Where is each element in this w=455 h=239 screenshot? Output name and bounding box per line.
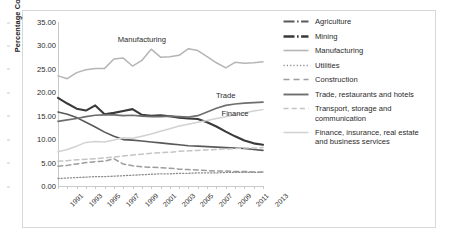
legend-line-icon (283, 60, 309, 71)
legend-item[interactable]: Construction (283, 74, 433, 85)
y-axis-tick-mark (7, 139, 10, 140)
x-axis-tick-mark (188, 186, 189, 189)
series-line (58, 159, 263, 172)
y-axis-tick-label: 5.00 (10, 158, 56, 167)
y-axis-tick-mark (7, 163, 10, 164)
legend-line-icon (283, 74, 309, 85)
chart-legend: AgricultureMiningManufacturingUtilitiesC… (283, 16, 433, 150)
y-axis-tick-label: 15.00 (10, 111, 56, 120)
y-axis-title: Percentage Contribution (13, 0, 22, 68)
y-axis-tick-mark (7, 22, 10, 23)
legend-item[interactable]: Finance, insurance, real estate and busi… (283, 127, 433, 147)
x-axis-tick-mark (226, 186, 227, 189)
legend-item-label: Transport, storage and communication (315, 103, 392, 123)
legend-line-icon (283, 45, 309, 56)
legend-line-icon (283, 16, 309, 27)
plot-area: Percentage Contribution 0.005.0010.0015.… (58, 22, 270, 192)
x-axis-tick-mark (151, 186, 152, 189)
x-axis-tick-mark (86, 186, 87, 189)
legend-item-label: Trade, restaurants and hotels (315, 89, 414, 100)
x-axis-tick-mark (244, 186, 245, 189)
y-axis-tick-label: 20.00 (10, 88, 56, 97)
x-axis-tick-mark (254, 186, 255, 189)
y-axis-tick-label: 10.00 (10, 135, 56, 144)
legend-item[interactable]: Trade, restaurants and hotels (283, 89, 433, 100)
legend-item[interactable]: Utilities (283, 60, 433, 71)
x-axis-tick-mark (142, 186, 143, 189)
x-axis-tick-mark (235, 186, 236, 189)
x-axis-tick-mark (58, 186, 59, 189)
x-axis-tick-mark (123, 186, 124, 189)
legend-item-label: Construction (315, 74, 358, 85)
series-annotation: Manufacturing (118, 35, 166, 44)
legend-line-icon (283, 31, 309, 42)
x-axis-tick-mark (161, 186, 162, 189)
x-axis-tick-mark (77, 186, 78, 189)
y-axis-tick-label: 0.00 (10, 182, 56, 191)
x-axis-tick-mark (179, 186, 180, 189)
series-annotation: Finance (222, 108, 249, 117)
legend-item-label: Utilities (315, 60, 339, 71)
series-line (58, 49, 263, 79)
series-annotation: Trade (216, 91, 236, 100)
legend-item-label: Finance, insurance, real estate and busi… (315, 127, 419, 147)
legend-item[interactable]: Transport, storage and communication (283, 103, 433, 123)
legend-item-label: Mining (315, 31, 337, 42)
x-axis-tick-mark (67, 186, 68, 189)
y-axis-tick-label: 30.00 (10, 41, 56, 50)
chart-figure: Percentage Contribution 0.005.0010.0015.… (0, 0, 455, 239)
legend-line-icon (283, 127, 309, 138)
x-axis-tick-mark (263, 186, 264, 189)
legend-item[interactable]: Manufacturing (283, 45, 433, 56)
legend-item-label: Manufacturing (315, 45, 363, 56)
x-axis-tick-mark (207, 186, 208, 189)
y-axis-tick-mark (7, 186, 10, 187)
series-line (58, 172, 263, 178)
x-axis-tick-mark (198, 186, 199, 189)
series-lines (58, 22, 263, 186)
legend-item-label: Agriculture (315, 16, 351, 27)
series-line (58, 148, 263, 162)
x-axis-tick-mark (95, 186, 96, 189)
y-axis-tick-label: 35.00 (10, 18, 56, 27)
legend-item[interactable]: Agriculture (283, 16, 433, 27)
y-axis-tick-mark (7, 92, 10, 93)
y-axis-tick-mark (7, 45, 10, 46)
y-axis-tick-mark (7, 69, 10, 70)
y-axis-tick-mark (7, 116, 10, 117)
x-axis-tick-mark (216, 186, 217, 189)
legend-item[interactable]: Mining (283, 31, 433, 42)
x-axis-tick-mark (133, 186, 134, 189)
y-axis-tick-label: 25.00 (10, 64, 56, 73)
x-axis-tick-mark (105, 186, 106, 189)
legend-line-icon (283, 89, 309, 100)
legend-line-icon (283, 103, 309, 114)
x-axis-tick-mark (170, 186, 171, 189)
x-axis-tick-mark (114, 186, 115, 189)
